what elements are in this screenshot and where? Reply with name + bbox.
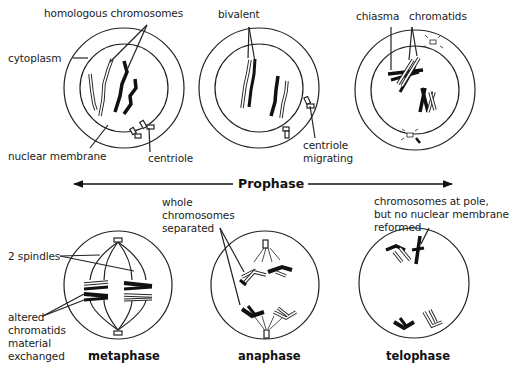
cell-early-prophase — [64, 25, 184, 152]
phase-anaphase: anaphase — [238, 349, 301, 363]
label-chiasma: chiasma — [356, 10, 399, 23]
cell-telophase — [359, 228, 469, 338]
label-altered-line3: material — [8, 337, 51, 350]
cell-late-prophase — [355, 27, 475, 150]
label-pole-line1: chromosomes at pole, — [374, 195, 489, 208]
label-centriole: centriole — [148, 152, 193, 165]
phase-metaphase: metaphase — [88, 349, 160, 363]
label-whole-line3: separated — [162, 222, 214, 235]
phase-telophase: telophase — [386, 349, 450, 363]
label-chromatids: chromatids — [409, 10, 467, 23]
label-homologous-chromosomes: homologous chromosomes — [44, 7, 183, 20]
label-centriole-migrating-line2: migrating — [303, 152, 353, 165]
label-altered-line1: altered — [8, 311, 44, 324]
label-centriole-migrating-line1: centriole — [303, 139, 348, 152]
label-altered-line4: exchanged — [8, 350, 65, 363]
label-altered-line2: chromatids — [8, 324, 66, 337]
cell-metaphase — [43, 231, 172, 339]
label-pole-line2: but no nuclear membrane — [374, 208, 509, 221]
label-cytoplasm: cytoplasm — [8, 52, 61, 65]
label-whole-line1: whole — [162, 196, 193, 209]
cell-mid-prophase — [199, 27, 319, 148]
cell-anaphase — [211, 228, 319, 339]
label-2-spindles: 2 spindles — [8, 250, 60, 263]
label-pole-line3: reformed — [374, 221, 421, 234]
label-whole-line2: chromosomes — [162, 209, 235, 222]
label-nuclear-membrane: nuclear membrane — [8, 150, 106, 163]
label-bivalent: bivalent — [218, 8, 260, 21]
prophase-label: Prophase — [234, 176, 308, 191]
